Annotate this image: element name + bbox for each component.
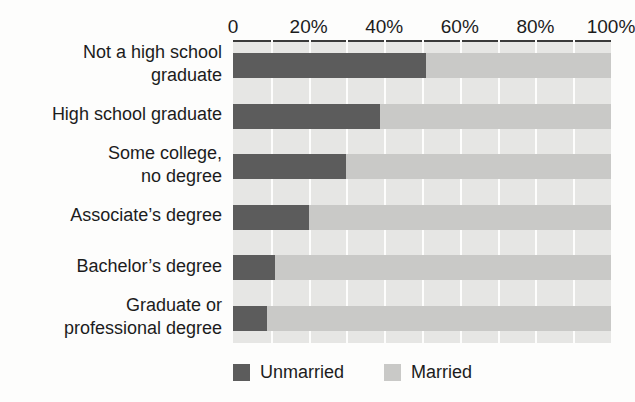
bar-segment-unmarried [233,154,346,179]
chart-title [0,0,626,3]
legend-label: Married [411,362,472,382]
x-tick-label: 40% [365,16,403,38]
bar-segment-married [267,306,611,331]
stacked-bar [233,104,611,129]
y-axis-label: Associate’s degree [0,204,222,227]
legend-label: Unmarried [260,362,344,382]
y-axis-label-line: Not a high school [0,41,222,64]
bar-segment-married [426,53,611,78]
bar-row [233,242,611,293]
bar-row [233,91,611,142]
stacked-bar [233,306,611,331]
chart-legend: UnmarriedMarried [233,357,611,387]
bar-segment-married [380,104,611,129]
x-tick-label: 20% [290,16,328,38]
y-axis-category-labels: Not a high schoolgraduateHigh school gra… [0,40,222,343]
y-axis-label: Some college,no degree [0,142,222,188]
legend-item[interactable]: Unmarried [233,362,344,382]
stacked-bar [233,53,611,78]
bar-row [233,40,611,91]
legend-item[interactable]: Married [384,362,472,382]
y-axis-label-line: no degree [0,165,222,188]
bar-segment-married [275,255,611,280]
y-axis-label: Not a high schoolgraduate [0,41,222,87]
y-axis-label-line: Associate’s degree [0,204,222,227]
stacked-bar [233,154,611,179]
bar-segment-unmarried [233,306,267,331]
x-tick-label: 60% [441,16,479,38]
legend-swatch-icon [384,364,401,381]
x-tick-label: 0 [228,16,239,38]
stacked-bar [233,255,611,280]
bar-segment-unmarried [233,205,309,230]
y-axis-label-line: Bachelor’s degree [0,255,222,278]
stacked-bar [233,205,611,230]
bar-row [233,141,611,192]
x-axis-tick-labels: 020%40%60%80%100% [233,16,611,40]
x-tick-label: 100% [587,16,635,38]
bar-segment-unmarried [233,53,426,78]
y-axis-label-line: High school graduate [0,103,222,126]
bar-segment-married [309,205,611,230]
y-axis-label-line: Some college, [0,142,222,165]
bar-segment-unmarried [233,104,380,129]
x-tick-label: 80% [516,16,554,38]
bar-segment-married [346,154,611,179]
bar-row [233,293,611,344]
plot-area [233,40,611,343]
y-axis-label-line: graduate [0,64,222,87]
y-axis-label-line: professional degree [0,317,222,340]
y-axis-label: High school graduate [0,103,222,126]
bar-segment-unmarried [233,255,275,280]
bar-row [233,192,611,243]
legend-swatch-icon [233,364,250,381]
y-axis-label-line: Graduate or [0,294,222,317]
y-axis-label: Graduate orprofessional degree [0,294,222,340]
y-axis-label: Bachelor’s degree [0,255,222,278]
